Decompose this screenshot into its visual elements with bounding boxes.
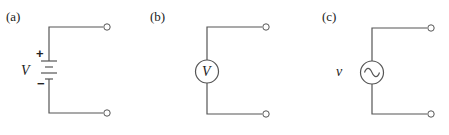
plus-sign: + [36, 46, 44, 61]
terminal-top [104, 24, 110, 30]
top-wire [49, 27, 103, 61]
bottom-wire [372, 84, 427, 114]
panel-c-label: (c) [322, 9, 336, 24]
terminal-bottom [104, 110, 110, 116]
sine-wave-icon [365, 68, 380, 76]
terminal-bottom [428, 111, 434, 117]
terminal-top [428, 25, 434, 31]
top-wire [372, 28, 427, 61]
terminal-bottom [263, 111, 269, 117]
top-wire [207, 27, 262, 60]
panel-c: (c) v [322, 9, 434, 117]
panel-a: (a) + − V [6, 9, 110, 116]
bottom-wire [49, 79, 103, 113]
terminal-top [263, 24, 269, 30]
circuit-diagram: (a) + − V (b) V (c) v [0, 0, 449, 135]
voltage-symbol: v [336, 64, 343, 79]
voltage-symbol: V [202, 64, 212, 79]
panel-b: (b) V [150, 9, 269, 117]
panel-b-label: (b) [150, 9, 165, 24]
minus-sign: − [37, 76, 45, 91]
panel-a-label: (a) [6, 9, 20, 24]
bottom-wire [207, 83, 262, 114]
voltage-symbol: V [21, 63, 31, 78]
